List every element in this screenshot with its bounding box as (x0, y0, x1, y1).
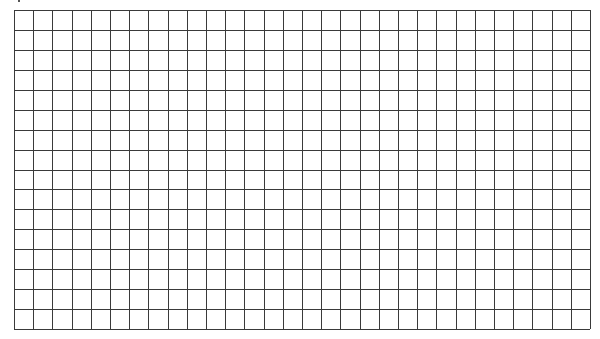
grid-lines (14, 10, 590, 329)
grid-area (14, 10, 590, 329)
clipped-glyph-mark (18, 0, 20, 2)
grid-canvas (0, 0, 600, 339)
